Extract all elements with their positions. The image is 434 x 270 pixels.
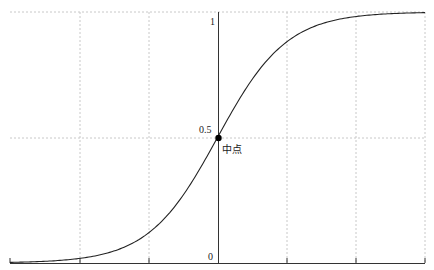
midpoint-marker	[215, 135, 221, 141]
midpoint-label: 中点	[222, 143, 242, 155]
y-label-one: 1	[210, 16, 215, 27]
y-label-half: 0.5	[199, 124, 212, 135]
y-label-zero: 0	[208, 251, 213, 262]
sigmoid-chart: 1 0.5 0 中点	[0, 0, 434, 270]
